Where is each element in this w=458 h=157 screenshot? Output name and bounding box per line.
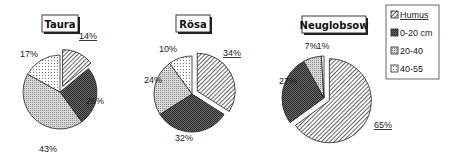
chart-title-text: Taura [44, 19, 75, 30]
slice-label: 24% [144, 75, 162, 85]
legend-label: Humus [400, 10, 429, 20]
legend-swatch [391, 29, 398, 36]
legend-swatch [391, 47, 398, 54]
chart-title-taura: Taura [42, 15, 80, 34]
chart-title-neuglobsow: Neuglobsow [300, 16, 369, 35]
slice-label: 26% [86, 96, 104, 106]
slice-label: 27% [279, 76, 297, 86]
legend: Humus0-20 cm20-4040-55 [386, 5, 439, 79]
slice-label: 17% [20, 49, 38, 59]
slice-label: 1% [316, 41, 329, 51]
pie-chart-r-sa: 34%32%24%10%Rösa [144, 15, 241, 143]
chart-title-text: Rösa [179, 19, 206, 30]
slice-label: 34% [223, 48, 241, 58]
slice-label: 43% [39, 144, 57, 154]
chart-title-r-sa: Rösa [176, 15, 212, 34]
legend-label: 20-40 [400, 46, 423, 56]
slice-label: 10% [159, 44, 177, 54]
pie-chart-taura: 14%26%43%17%Taura [20, 15, 104, 154]
slice-label: 14% [79, 31, 97, 41]
legend-swatch [391, 65, 398, 72]
legend-label: 40-55 [400, 64, 423, 74]
slice-label: 65% [374, 120, 392, 130]
slice-label: 32% [175, 133, 193, 143]
chart-title-text: Neuglobsow [300, 20, 369, 31]
pie-charts-figure: 14%26%43%17%Taura34%32%24%10%Rösa65%27%7… [0, 0, 458, 157]
pie-chart-neuglobsow: 65%27%7%1%Neuglobsow [279, 16, 392, 143]
legend-label: 0-20 cm [400, 28, 433, 38]
legend-swatch [391, 11, 398, 18]
